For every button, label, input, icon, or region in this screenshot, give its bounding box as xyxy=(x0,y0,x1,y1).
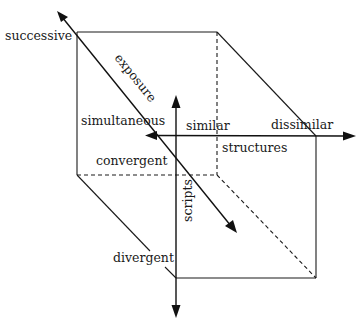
label-dissimilar: dissimilar xyxy=(271,117,333,132)
cube-diagram: successive exposure simultaneous similar… xyxy=(0,0,364,332)
arrowhead-down-icon xyxy=(172,305,181,318)
arrowhead-right-icon xyxy=(343,132,356,141)
label-exposure: exposure xyxy=(112,50,160,104)
edge-left-bottom-lower xyxy=(165,267,176,278)
label-structures: structures xyxy=(222,140,287,155)
label-scripts: scripts xyxy=(180,179,195,222)
label-successive: successive xyxy=(5,28,72,43)
arrowhead-left-icon xyxy=(145,131,157,140)
arrowhead-up-left-icon xyxy=(57,11,68,22)
structures-axis-line xyxy=(152,136,346,137)
label-simultaneous: simultaneous xyxy=(81,113,165,128)
label-similar: similar xyxy=(186,118,230,133)
label-convergent: convergent xyxy=(96,153,167,168)
arrowhead-down-right-icon xyxy=(225,220,237,233)
label-divergent: divergent xyxy=(113,250,174,265)
arrowhead-up-icon xyxy=(172,95,181,108)
edge-left-bottom-upper xyxy=(77,175,150,251)
